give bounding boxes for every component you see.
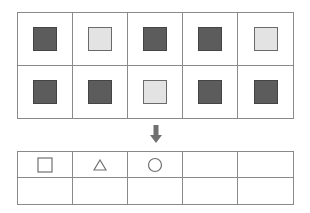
grid-cell [128, 66, 183, 119]
grid-cell [18, 13, 73, 66]
answer-cell [18, 152, 73, 178]
grid-cell [183, 66, 238, 119]
light-square-icon [254, 27, 278, 51]
grid-cell [238, 13, 293, 66]
grid-cell [128, 13, 183, 66]
grid-cell [238, 66, 293, 119]
grid-cell [18, 66, 73, 119]
dark-square-icon [33, 80, 57, 104]
dark-square-icon [143, 27, 167, 51]
light-square-icon [143, 80, 167, 104]
dark-square-icon [88, 80, 112, 104]
grid-cell [183, 13, 238, 66]
triangle-icon [93, 159, 107, 171]
grid-cell [73, 66, 128, 119]
answer-cell [18, 178, 73, 204]
circle-icon [147, 157, 163, 173]
answer-cell [73, 152, 128, 178]
answer-cell [128, 178, 183, 204]
dark-square-icon [198, 27, 222, 51]
answer-cell [183, 152, 238, 178]
arrow-down-icon [150, 125, 162, 144]
dark-square-icon [198, 80, 222, 104]
bottom-shape-grid [17, 151, 294, 205]
square-icon [37, 157, 53, 173]
dark-square-icon [33, 27, 57, 51]
answer-cell [128, 152, 183, 178]
light-square-icon [88, 27, 112, 51]
answer-cell [238, 178, 293, 204]
answer-cell [73, 178, 128, 204]
dark-square-icon [254, 80, 278, 104]
top-square-grid [17, 12, 294, 119]
grid-cell [73, 13, 128, 66]
answer-cell [238, 152, 293, 178]
answer-cell [183, 178, 238, 204]
